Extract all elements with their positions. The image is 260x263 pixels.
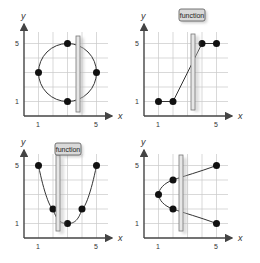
x-axis-label: x [117, 111, 123, 121]
x-tick-1: 1 [36, 243, 40, 250]
function-label: function [55, 143, 83, 157]
svg-text:function: function [56, 146, 81, 153]
panel-circle: x y 1 5 1 5 [15, 11, 123, 128]
y-tick-5: 5 [135, 40, 139, 47]
x-tick-1: 1 [156, 243, 160, 250]
vertical-line-test-bar [76, 36, 80, 112]
x-axis-label: x [237, 111, 243, 121]
y-axis-label: y [20, 11, 26, 21]
svg-text:function: function [180, 12, 205, 19]
y-axis-label: y [140, 137, 146, 147]
vertical-line-test-bar [191, 34, 195, 110]
vertical-line-test-bar [56, 155, 60, 231]
y-tick-1: 1 [135, 220, 139, 227]
vertical-line-test-diagram: x y 1 5 1 5 [0, 0, 260, 263]
x-tick-5: 5 [214, 121, 218, 128]
y-axis-label: y [20, 137, 26, 147]
y-tick-5: 5 [15, 40, 19, 47]
y-tick-5: 5 [135, 162, 139, 169]
x-axis-label: x [117, 233, 123, 243]
panel-parabola: function x y 1 5 1 5 [15, 137, 123, 250]
y-axis-label: y [140, 11, 146, 21]
x-tick-5: 5 [94, 121, 98, 128]
x-tick-5: 5 [94, 243, 98, 250]
vertical-line-test-bar [179, 155, 183, 231]
function-label: function [179, 9, 207, 23]
panel-sideways-parabola: x y 1 5 1 5 [135, 137, 243, 250]
y-tick-1: 1 [15, 220, 19, 227]
x-tick-1: 1 [36, 121, 40, 128]
y-tick-1: 1 [135, 98, 139, 105]
x-axis-label: x [237, 233, 243, 243]
panel-step-function: function x y 1 5 1 5 [135, 9, 243, 128]
y-tick-1: 1 [15, 98, 19, 105]
x-tick-5: 5 [214, 243, 218, 250]
y-tick-5: 5 [15, 162, 19, 169]
x-tick-1: 1 [156, 121, 160, 128]
